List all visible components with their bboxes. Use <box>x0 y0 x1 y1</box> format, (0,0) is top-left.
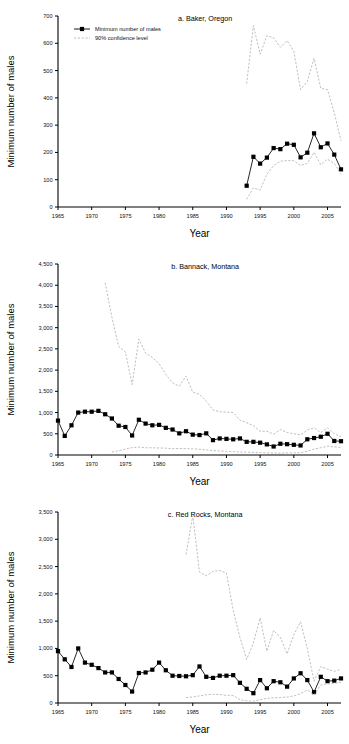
data-point-marker <box>110 416 114 420</box>
data-point-marker <box>56 419 60 423</box>
data-point-marker <box>332 439 336 443</box>
data-point-marker <box>325 141 329 145</box>
data-point-marker <box>251 155 255 159</box>
data-point-marker <box>238 436 242 440</box>
y-tick-label: 4,500 <box>39 261 53 267</box>
x-tick-label: 1965 <box>52 461 64 467</box>
data-point-marker <box>325 432 329 436</box>
chart-b-svg: b. Bannack, Montana05001,0001,5002,0002,… <box>0 248 349 496</box>
data-point-marker <box>90 410 94 414</box>
data-point-marker <box>339 439 343 443</box>
data-point-marker <box>123 425 127 429</box>
panel-b-bannack-montana: b. Bannack, Montana05001,0001,5002,0002,… <box>0 248 349 496</box>
y-tick-label: 3,000 <box>39 325 53 331</box>
confidence-line <box>112 446 341 453</box>
data-point-marker <box>177 431 181 435</box>
chart-c-svg: c. Red Rocks, Montana05001,0001,5002,000… <box>0 496 349 744</box>
data-point-marker <box>103 412 107 416</box>
data-point-marker <box>285 142 289 146</box>
y-tick-label: 500 <box>43 673 52 679</box>
data-point-marker <box>258 678 262 682</box>
data-point-marker <box>305 151 309 155</box>
data-point-marker <box>144 421 148 425</box>
x-tick-label: 1970 <box>85 709 97 715</box>
y-tick-label: 2,500 <box>39 346 53 352</box>
x-tick-label: 2005 <box>321 461 333 467</box>
x-tick-label: 1965 <box>52 709 64 715</box>
x-tick-label: 1985 <box>187 461 199 467</box>
data-point-marker <box>224 437 228 441</box>
data-point-marker <box>144 670 148 674</box>
panel-title: b. Bannack, Montana <box>171 262 239 271</box>
legend: Minimum number of males90% confidence le… <box>74 26 161 41</box>
data-point-marker <box>231 437 235 441</box>
data-point-marker <box>83 661 87 665</box>
x-axis-title: Year <box>189 228 210 239</box>
y-tick-label: 600 <box>43 40 52 46</box>
x-tick-label: 1995 <box>254 461 266 467</box>
x-tick-label: 1990 <box>220 461 232 467</box>
y-tick-label: 500 <box>43 68 52 74</box>
x-axis-title: Year <box>189 476 210 487</box>
data-point-marker <box>251 440 255 444</box>
data-point-marker <box>130 689 134 693</box>
data-point-marker <box>103 670 107 674</box>
data-point-marker <box>245 184 249 188</box>
data-point-marker <box>272 146 276 150</box>
y-tick-label: 400 <box>43 95 52 101</box>
x-tick-label: 1990 <box>220 709 232 715</box>
x-tick-label: 1985 <box>187 709 199 715</box>
x-tick-label: 1980 <box>153 461 165 467</box>
data-point-marker <box>137 671 141 675</box>
data-point-marker <box>177 674 181 678</box>
data-point-marker <box>278 442 282 446</box>
y-tick-label: 1,000 <box>39 410 53 416</box>
data-point-marker <box>245 687 249 691</box>
confidence-line <box>186 682 341 701</box>
data-point-marker <box>251 691 255 695</box>
y-tick-label: 3,000 <box>39 536 53 542</box>
data-point-marker <box>265 156 269 160</box>
data-point-marker <box>278 147 282 151</box>
x-axis-title: Year <box>189 724 210 735</box>
x-tick-label: 2005 <box>321 709 333 715</box>
data-point-marker <box>170 427 174 431</box>
y-tick-label: 4,000 <box>39 282 53 288</box>
x-tick-label: 2000 <box>288 709 300 715</box>
data-point-marker <box>292 443 296 447</box>
data-point-marker <box>265 442 269 446</box>
data-point-marker <box>332 153 336 157</box>
data-point-marker <box>204 675 208 679</box>
y-tick-label: 2,000 <box>39 367 53 373</box>
legend-label-series2: 90% confidence level <box>95 35 148 41</box>
confidence-line <box>186 516 341 681</box>
figure-three-panel-population-trends: a. Baker, Oregon010020030040050060070019… <box>0 0 349 744</box>
confidence-line <box>247 26 341 141</box>
x-tick-label: 1970 <box>85 213 97 219</box>
data-point-marker <box>96 409 100 413</box>
x-tick-label: 1980 <box>153 213 165 219</box>
y-tick-label: 100 <box>43 177 52 183</box>
data-point-marker <box>69 423 73 427</box>
data-point-marker <box>224 674 228 678</box>
data-point-marker <box>285 442 289 446</box>
x-tick-label: 1995 <box>254 709 266 715</box>
data-point-marker <box>319 675 323 679</box>
data-point-marker <box>298 155 302 159</box>
x-tick-label: 1975 <box>119 461 131 467</box>
y-axis-title: Minimum number of males <box>5 303 16 415</box>
data-point-marker <box>319 435 323 439</box>
data-point-marker <box>96 666 100 670</box>
data-point-marker <box>157 661 161 665</box>
data-point-marker <box>272 444 276 448</box>
x-tick-label: 1965 <box>52 213 64 219</box>
y-tick-label: 1,000 <box>39 645 53 651</box>
x-tick-label: 1995 <box>254 213 266 219</box>
data-point-marker <box>110 670 114 674</box>
x-tick-label: 1975 <box>119 709 131 715</box>
data-point-marker <box>76 410 80 414</box>
data-point-marker <box>184 429 188 433</box>
data-point-marker <box>191 433 195 437</box>
data-point-marker <box>245 440 249 444</box>
data-point-marker <box>197 433 201 437</box>
